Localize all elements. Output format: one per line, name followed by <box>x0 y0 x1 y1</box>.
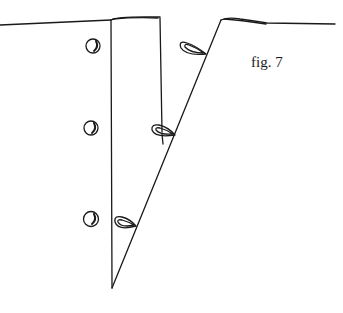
left-panel-fold-line <box>111 20 112 288</box>
left-panel-top-edge <box>0 20 111 25</box>
right-panel-top-edge <box>221 18 335 24</box>
button-icon <box>86 39 100 53</box>
button-icon <box>84 212 99 227</box>
garment-closure-diagram <box>0 0 343 313</box>
button-loop-icon <box>180 42 206 54</box>
button-icon <box>84 121 98 135</box>
figure-caption: fig. 7 <box>251 54 283 71</box>
placket-top-fold <box>113 18 158 19</box>
placket-right-edge <box>160 18 162 132</box>
right-panel-diagonal-edge <box>112 20 221 288</box>
button-loop-icon <box>115 217 136 228</box>
